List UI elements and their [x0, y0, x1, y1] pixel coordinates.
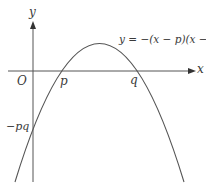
parabola-diagram: y x O p q −pq y = −(x − p)(x − q): [0, 0, 206, 186]
y-intercept-label: −pq: [6, 121, 29, 132]
y-axis-arrow-icon: [30, 21, 36, 29]
x-axis-label: x: [197, 63, 204, 75]
y-axis-label: y: [29, 6, 36, 18]
root-p-label: p: [60, 75, 68, 87]
equation-label: y = −(x − p)(x − q): [119, 34, 206, 45]
root-q-label: q: [130, 74, 138, 86]
parabola-curve: [15, 44, 184, 183]
x-axis-arrow-icon: [188, 68, 196, 74]
origin-label: O: [17, 75, 27, 87]
graph-canvas: [0, 0, 206, 186]
